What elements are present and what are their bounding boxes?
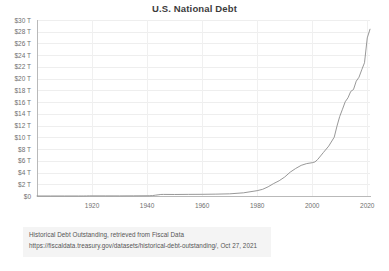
data-series-line [37,20,370,197]
x-axis-tick-label: 1920 [72,202,112,210]
x-axis-tick-label: 1940 [127,202,167,210]
x-axis-tick-label: 2000 [292,202,332,210]
caption-source-line: Historical Debt Outstanding, retrieved f… [29,231,184,238]
x-axis-tick-label: 1960 [182,202,222,210]
caption-url-line: https://fiscaldata.treasury.gov/datasets… [29,242,257,249]
x-axis-tick-label: 2020 [347,202,387,210]
x-axis-tick-label: 1980 [237,202,277,210]
chart-figure: U.S. National Debt $30 T$28 T$26 T$24 T$… [0,0,389,271]
